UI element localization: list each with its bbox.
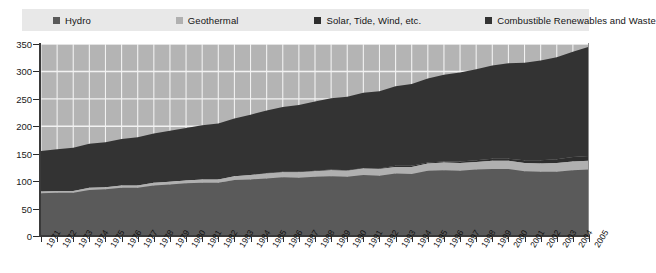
x-axis-tick-label: 1976: [125, 228, 144, 249]
x-axis-tick: [396, 237, 397, 242]
x-axis-tick-label: 1991: [366, 228, 385, 249]
x-axis-tick-label: 1987: [302, 228, 321, 249]
x-axis-tick: [154, 237, 155, 242]
x-axis-tick: [412, 237, 413, 242]
x-axis-tick-label: 1999: [495, 228, 514, 249]
x-axis-tick: [460, 237, 461, 242]
x-axis-tick-label: 1995: [431, 228, 450, 249]
x-axis-tick-label: 1973: [76, 228, 95, 249]
x-axis-tick: [170, 237, 171, 242]
x-axis-tick: [251, 237, 252, 242]
x-axis-tick-label: 1994: [415, 228, 434, 249]
x-axis-tick: [525, 237, 526, 242]
x-axis-tick: [57, 237, 58, 242]
x-axis-tick: [234, 237, 235, 242]
x-axis-tick-label: 1986: [286, 228, 305, 249]
x-axis-tick: [379, 237, 380, 242]
x-axis-tick-label: 1982: [221, 228, 240, 249]
x-axis-tick-label: 2004: [576, 228, 595, 249]
x-axis-tick-label: 2000: [511, 228, 530, 249]
x-axis-tick-label: 1981: [205, 228, 224, 249]
x-axis-tick: [508, 237, 509, 242]
x-axis-tick: [138, 237, 139, 242]
x-axis-tick-label: 1979: [173, 228, 192, 249]
x-axis-tick: [73, 237, 74, 242]
x-axis-tick-label: 1989: [334, 228, 353, 249]
x-axis-tick-label: 1974: [92, 228, 111, 249]
x-axis-tick-label: 1972: [60, 228, 79, 249]
x-axis-tick: [122, 237, 123, 242]
x-axis-tick: [299, 237, 300, 242]
x-axis-tick-label: 2003: [560, 228, 579, 249]
x-axis-tick: [476, 237, 477, 242]
x-axis-tick-label: 1980: [189, 228, 208, 249]
x-axis-tick-label: 1997: [463, 228, 482, 249]
x-axis-tick: [218, 237, 219, 242]
x-axis-tick-label: 1998: [479, 228, 498, 249]
x-axis-tick: [105, 237, 106, 242]
x-axis-tick: [41, 237, 42, 242]
x-axis-tick: [267, 237, 268, 242]
x-axis-tick-label: 1990: [350, 228, 369, 249]
x-axis-tick-label: 1992: [382, 228, 401, 249]
x-axis-tick: [589, 237, 590, 242]
x-axis-tick: [363, 237, 364, 242]
x-axis-tick: [573, 237, 574, 242]
x-axis-tick-label: 1996: [447, 228, 466, 249]
x-axis-tick-label: 1984: [254, 228, 273, 249]
x-axis-tick: [283, 237, 284, 242]
x-axis-tick-label: 1975: [108, 228, 127, 249]
x-axis-tick-label: 1985: [270, 228, 289, 249]
x-axis-tick-label: 1988: [318, 228, 337, 249]
x-axis-tick: [89, 237, 90, 242]
x-axis-tick-label: 1983: [237, 228, 256, 249]
x-axis-tick: [444, 237, 445, 242]
x-axis-tick: [186, 237, 187, 242]
x-axis-tick-label: 1993: [399, 228, 418, 249]
x-axis-tick-label: 1978: [157, 228, 176, 249]
x-axis-tick-label: 2001: [528, 228, 547, 249]
x-axis-tick-label: 2002: [544, 228, 563, 249]
x-axis-tick: [202, 237, 203, 242]
x-axis-tick-label: 1977: [141, 228, 160, 249]
x-axis-tick: [347, 237, 348, 242]
x-axis-tick-label: 1971: [44, 228, 63, 249]
x-axis-tick-label: 2005: [592, 228, 611, 249]
x-axis-tick: [331, 237, 332, 242]
x-axis-tick: [541, 237, 542, 242]
x-axis-tick: [492, 237, 493, 242]
x-axis-tick: [557, 237, 558, 242]
x-axis-tick: [428, 237, 429, 242]
x-axis-tick: [315, 237, 316, 242]
